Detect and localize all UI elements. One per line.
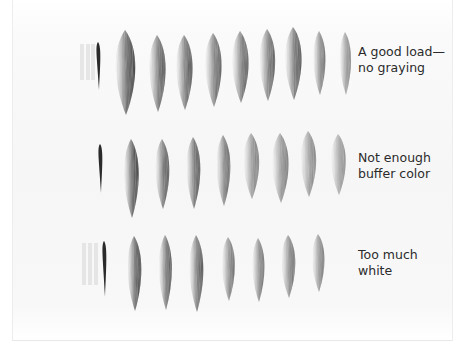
ghost-stroke [80,44,84,80]
label-line: buffer color [358,166,431,182]
stroke-row-not-enough-buffer [98,131,345,218]
brush-stroke [159,235,172,310]
stroke-row-too-much-white [82,234,324,312]
ghost-stroke [91,44,95,80]
brush-stroke [216,135,230,206]
thin-stroke [96,42,100,90]
ghost-stroke [94,243,98,285]
label-line: Too much [358,247,418,263]
brush-stroke [313,31,325,95]
row-label-good-load: A good load— no graying [358,44,445,76]
brush-stroke [155,139,169,209]
ghost-stroke [86,44,90,80]
brush-stroke [285,27,301,100]
brush-stroke [222,237,235,301]
brush-stroke [127,236,141,311]
brush-stroke [205,33,221,107]
row-label-too-much-white: Too much white [358,247,418,279]
thin-stroke [102,241,106,297]
label-line: A good load— [358,44,445,60]
thin-stroke [98,144,102,193]
brush-stroke [331,134,346,195]
brush-stroke [176,35,192,110]
brush-stroke [232,31,248,103]
label-line: Not enough [358,150,431,166]
stroke-row-good-load [80,27,351,115]
brush-stroke [301,131,317,197]
brush-stroke [149,35,165,112]
label-line: no graying [358,60,445,76]
brush-stroke [272,133,288,203]
ghost-stroke [82,243,86,285]
brush-stroke [244,133,260,199]
label-line: white [358,263,418,279]
brush-stroke [312,234,324,292]
brush-stroke [252,238,264,302]
brush-stroke [189,235,203,312]
brush-stroke [340,32,351,95]
row-label-not-enough-buffer: Not enough buffer color [358,150,431,182]
brush-stroke [124,139,139,218]
brush-stroke [116,30,136,115]
ghost-stroke [88,243,92,285]
brush-stroke [260,29,276,101]
brush-stroke [186,137,200,209]
brush-stroke [281,235,295,298]
